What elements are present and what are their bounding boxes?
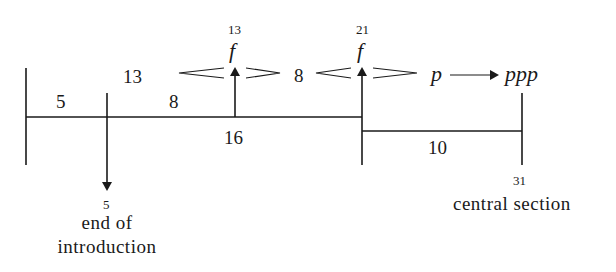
segment-lower-8: 8 <box>169 92 179 111</box>
first-climax-dynamic: f <box>229 40 235 62</box>
segment-between-climaxes: 8 <box>294 66 304 85</box>
segment-intro-duration: 5 <box>56 92 66 111</box>
crescendo-hairpin-1 <box>179 68 224 78</box>
intro-end-label-line2: introduction <box>47 237 167 256</box>
arrow-right-icon <box>490 70 499 80</box>
decrescendo-hairpin-1 <box>246 68 280 78</box>
intro-end-label: end of introduction <box>47 213 167 256</box>
crescendo-hairpin-2 <box>316 68 351 78</box>
second-climax-dynamic: f <box>357 40 363 62</box>
arrow-up-icon <box>230 67 240 76</box>
first-climax-position: 16 <box>224 128 243 147</box>
central-bar-number: 31 <box>513 174 526 187</box>
second-climax-bar-number: 21 <box>356 23 369 36</box>
arrow-down-icon <box>102 182 112 191</box>
intro-end-label-line1: end of <box>47 213 167 232</box>
first-climax-bar-number: 13 <box>228 23 241 36</box>
arrow-up-icon <box>357 67 367 76</box>
dynamic-to: ppp <box>505 63 538 85</box>
intro-end-bar-number: 5 <box>103 198 110 211</box>
decrescendo-hairpin-2 <box>373 68 417 78</box>
segment-build-to-central: 10 <box>428 138 447 157</box>
dynamic-from: p <box>431 63 442 85</box>
segment-upper-13: 13 <box>123 67 142 86</box>
central-section-label: central section <box>453 194 571 213</box>
